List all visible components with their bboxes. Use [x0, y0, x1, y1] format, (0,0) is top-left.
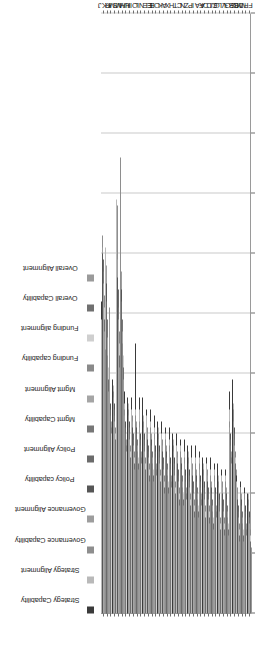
legend-label: Funding capability: [22, 354, 78, 361]
plot-area: 0.000.501.001.502.002.503.003.504.004.50…: [101, 13, 251, 613]
axis-tick: [251, 72, 255, 73]
category-tick: [238, 613, 239, 616]
category-tick-right: [193, 10, 194, 13]
legend-item[interactable]: Mgmt Alignment: [4, 384, 96, 401]
category-tick: [133, 613, 134, 616]
category-tick: [118, 613, 119, 616]
legend-swatch-icon: [87, 576, 94, 583]
category-tick-right: [118, 10, 119, 13]
legend-swatch-icon: [87, 425, 94, 432]
category-tick-right: [159, 10, 160, 13]
category-tick-right: [103, 10, 104, 13]
chart-legend: Strategy CapabilityStrategy AlignmentGov…: [4, 13, 96, 613]
axis-tick: [251, 372, 255, 373]
category-tick-right: [215, 10, 216, 13]
category-tick: [227, 613, 228, 616]
category-tick: [148, 613, 149, 616]
category-tick-right: [107, 10, 108, 13]
category-tick: [114, 613, 115, 616]
category-tick-right: [170, 10, 171, 13]
legend-item[interactable]: Governance Alignment: [4, 505, 96, 522]
legend-item[interactable]: Policy Alignment: [4, 445, 96, 462]
legend-item[interactable]: Funding alignment: [4, 324, 96, 341]
category-tick: [129, 613, 130, 616]
category-tick-right: [204, 10, 205, 13]
category-label: I: [192, 0, 194, 9]
legend-item[interactable]: Policy capability: [4, 475, 96, 492]
legend-label: Policy capability: [25, 475, 74, 482]
category-tick-right: [200, 10, 201, 13]
category-tick: [174, 613, 175, 616]
category-tick-right: [238, 10, 239, 13]
category-tick: [234, 613, 235, 616]
chart-stage: Strategy CapabilityStrategy AlignmentGov…: [0, 0, 260, 671]
category-tick: [200, 613, 201, 616]
category-tick-right: [189, 10, 190, 13]
category-tick-right: [208, 10, 209, 13]
category-tick-right: [178, 10, 179, 13]
category-tick-right: [137, 10, 138, 13]
category-tick: [144, 613, 145, 616]
category-tick: [152, 613, 153, 616]
category-tick: [137, 613, 138, 616]
legend-label: Overall Alignment: [23, 264, 78, 271]
legend-swatch-icon: [87, 274, 94, 281]
legend-label: Governance Capability: [15, 535, 86, 542]
legend-item[interactable]: Mgmt Capability: [4, 415, 96, 432]
category-tick: [189, 613, 190, 616]
axis-tick: [251, 492, 255, 493]
category-tick: [242, 613, 243, 616]
category-tick-right: [144, 10, 145, 13]
category-tick: [208, 613, 209, 616]
category-tick: [223, 613, 224, 616]
legend-swatch-icon: [87, 485, 94, 492]
category-tick: [122, 613, 123, 616]
axis-tick: [251, 312, 255, 313]
legend-label: Overall Capability: [23, 294, 78, 301]
legend-swatch-icon: [87, 364, 94, 371]
legend-item[interactable]: Governance Capability: [4, 535, 96, 552]
category-tick-right: [212, 10, 213, 13]
legend-item[interactable]: Strategy Alignment: [4, 566, 96, 583]
category-tick-right: [110, 10, 111, 13]
axis-tick: [251, 192, 255, 193]
category-tick: [212, 613, 213, 616]
category-tick-right: [174, 10, 175, 13]
legend-label: Strategy Capability: [21, 596, 79, 603]
legend-swatch-icon: [87, 455, 94, 462]
category-tick: [107, 613, 108, 616]
category-label: FF: [244, 0, 253, 9]
legend-item[interactable]: Funding capability: [4, 354, 96, 371]
legend-item[interactable]: Overall Capability: [4, 294, 96, 311]
legend-item[interactable]: Overall Alignment: [4, 264, 96, 281]
category-tick-right: [114, 10, 115, 13]
legend-label: Strategy Alignment: [21, 566, 80, 573]
category-tick: [193, 613, 194, 616]
category-tick-right: [152, 10, 153, 13]
category-tick-right: [219, 10, 220, 13]
category-tick: [219, 613, 220, 616]
category-tick-right: [223, 10, 224, 13]
axis-tick: [251, 552, 255, 553]
category-tick: [140, 613, 141, 616]
legend-label: Mgmt Capability: [25, 415, 75, 422]
category-tick-right: [148, 10, 149, 13]
category-tick: [197, 613, 198, 616]
category-group: [247, 13, 251, 613]
legend-swatch-icon: [87, 334, 94, 341]
category-tick: [159, 613, 160, 616]
category-tick-right: [167, 10, 168, 13]
category-tick: [103, 613, 104, 616]
category-tick-right: [133, 10, 134, 13]
axis-tick: [251, 612, 255, 613]
category-tick-right: [234, 10, 235, 13]
category-tick-right: [242, 10, 243, 13]
legend-label: Policy Alignment: [24, 445, 75, 452]
category-tick: [125, 613, 126, 616]
category-tick: [204, 613, 205, 616]
category-tick-right: [197, 10, 198, 13]
category-tick-right: [182, 10, 183, 13]
category-tick: [182, 613, 183, 616]
category-tick-right: [140, 10, 141, 13]
legend-item[interactable]: Strategy Capability: [4, 596, 96, 613]
